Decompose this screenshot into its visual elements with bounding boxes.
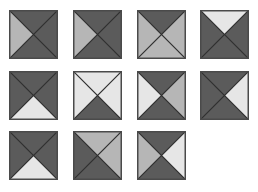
quartered-square-icon (137, 10, 186, 59)
quartered-square-icon (9, 10, 58, 59)
tile-r1-c4 (200, 10, 249, 59)
quartered-square-icon (200, 71, 249, 120)
quartered-square-icon (73, 10, 122, 59)
tile-r1-c2 (73, 10, 122, 59)
quartered-square-icon (73, 131, 122, 180)
tile-r3-c3 (137, 131, 186, 180)
quartered-square-icon (137, 131, 186, 180)
quartered-square-icon (137, 71, 186, 120)
tile-r2-c3 (137, 71, 186, 120)
tile-r2-c4 (200, 71, 249, 120)
quartered-square-icon (73, 71, 122, 120)
tile-r2-c2 (73, 71, 122, 120)
quartered-square-icon (9, 131, 58, 180)
tile-r2-c1 (9, 71, 58, 120)
quartered-square-icon (200, 10, 249, 59)
quartered-square-icon (9, 71, 58, 120)
tile-r3-c2 (73, 131, 122, 180)
tile-r3-c1 (9, 131, 58, 180)
tile-r1-c3 (137, 10, 186, 59)
tile-r1-c1 (9, 10, 58, 59)
tile-grid (0, 0, 258, 192)
